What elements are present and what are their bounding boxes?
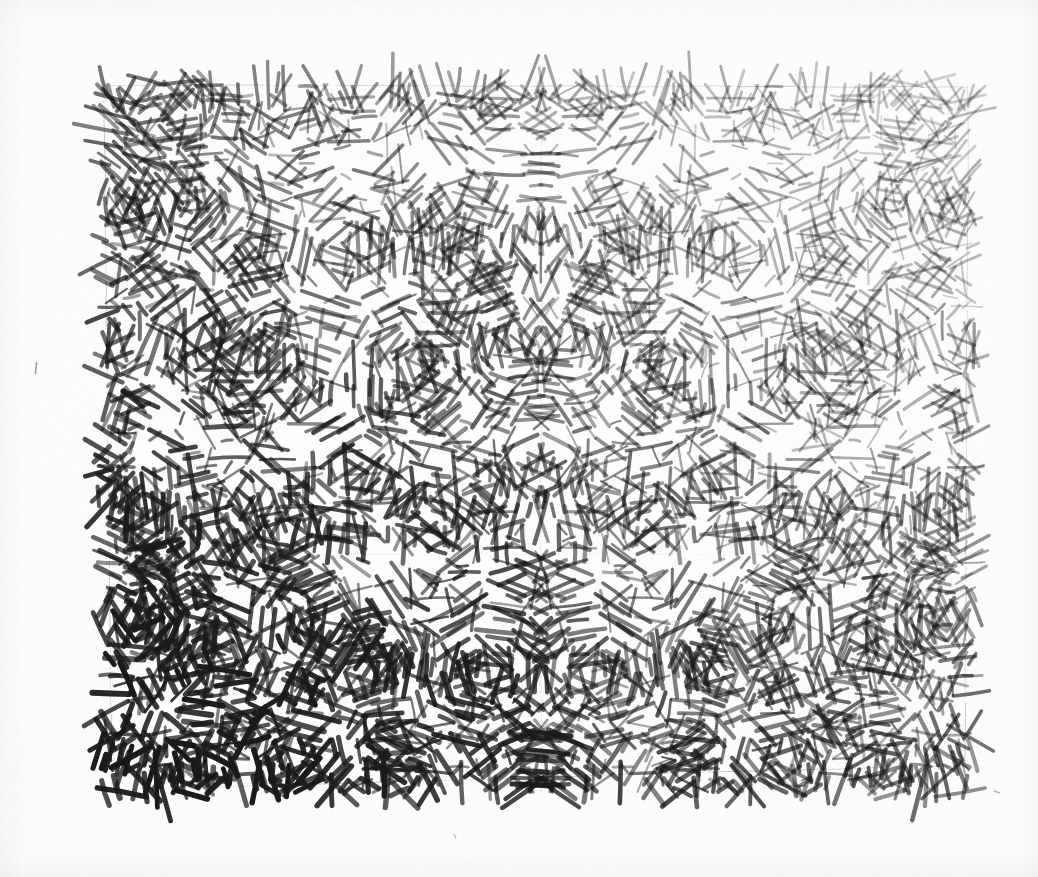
dash-stroke-filler-mirrored	[811, 591, 829, 594]
dash-stroke-filler	[269, 155, 306, 156]
dash-stroke-filler-mirrored	[604, 586, 632, 609]
dash-stroke-filler-mirrored	[941, 392, 953, 394]
dash-stroke-filler-mirrored	[676, 514, 692, 515]
dash-stroke-mirrored	[836, 283, 848, 300]
dash-stroke-filler	[188, 574, 219, 578]
dash-stroke-mirrored	[608, 547, 646, 573]
dash-stroke-mirrored	[897, 161, 911, 164]
dash-stroke	[328, 695, 333, 710]
lower-horizontal-fold	[366, 554, 400, 555]
dash-stroke-filler	[281, 197, 291, 201]
dash-stroke-mirrored	[647, 483, 663, 487]
dash-stroke-filler	[309, 511, 328, 513]
dash-stroke-filler	[443, 442, 470, 444]
dash-stroke	[369, 431, 380, 436]
dash-stroke-filler	[125, 132, 126, 149]
dash-stroke-filler-mirrored	[733, 497, 742, 498]
dash-stroke	[410, 394, 430, 403]
dash-stroke-mirrored	[860, 290, 885, 306]
dash-stroke-filler-mirrored	[669, 190, 679, 191]
dash-stroke	[320, 346, 339, 353]
dash-stroke-mirrored	[631, 64, 647, 106]
dash-stroke-filler-mirrored	[790, 197, 800, 201]
dash-stroke-mirrored	[811, 63, 817, 108]
dash-stroke	[363, 523, 366, 560]
dash-stroke-filler	[410, 272, 420, 274]
dash-stroke-filler	[306, 345, 307, 359]
frame-edge-left	[110, 684, 111, 710]
dash-stroke-filler-mirrored	[869, 290, 882, 291]
dash-stroke-filler-mirrored	[741, 557, 749, 568]
dash-stroke-mirrored	[701, 124, 708, 140]
dash-stroke	[444, 114, 460, 117]
dash-stroke	[224, 121, 244, 122]
dash-stroke-filler	[194, 397, 204, 399]
dash-stroke-filler	[225, 462, 232, 473]
dash-stroke-filler	[371, 484, 373, 510]
dash-stroke	[313, 453, 314, 489]
dash-stroke-filler-mirrored	[556, 355, 589, 361]
dash-stroke	[107, 324, 109, 367]
dash-stroke-filler-mirrored	[956, 573, 973, 584]
dash-stroke-mirrored	[632, 232, 633, 275]
dash-stroke-filler	[261, 245, 286, 248]
dash-stroke-mirrored	[742, 346, 762, 353]
dash-stroke-filler	[398, 144, 403, 183]
dash-stroke-mirrored	[572, 479, 575, 497]
dash-stroke-mirrored	[899, 714, 915, 730]
dash-stroke-filler-mirrored	[827, 474, 831, 492]
dash-stroke-filler-mirrored	[781, 211, 785, 224]
dash-stroke	[144, 773, 147, 801]
dash-stroke-filler	[386, 124, 387, 162]
dash-stroke-mirrored	[870, 73, 871, 107]
dash-stroke	[438, 547, 474, 573]
dash-stroke-filler-mirrored	[883, 357, 886, 367]
dash-stroke-filler-mirrored	[771, 663, 785, 665]
dash-stroke-mirrored	[649, 659, 652, 675]
dash-stroke-filler-mirrored	[654, 415, 655, 425]
dash-stroke	[86, 106, 135, 120]
dash-stroke	[495, 619, 514, 622]
dash-stroke-filler-mirrored	[737, 263, 750, 264]
dash-stroke	[330, 382, 331, 404]
dash-stroke-mirrored	[531, 185, 542, 186]
dash-stroke	[170, 179, 183, 181]
dash-stroke-filler	[432, 287, 433, 322]
dash-stroke-mirrored	[652, 393, 673, 403]
dash-stroke-filler-mirrored	[695, 125, 696, 160]
dash-stroke-mirrored	[551, 504, 554, 517]
dash-stroke-filler-mirrored	[799, 183, 811, 185]
dash-stroke-filler	[449, 572, 479, 573]
margin-speck-right	[995, 791, 1000, 793]
dash-stroke	[192, 517, 193, 562]
dash-stroke-filler-mirrored	[544, 757, 546, 769]
dash-stroke-filler-mirrored	[895, 230, 904, 259]
dash-stroke-filler-mirrored	[832, 457, 873, 458]
dash-stroke-filler-mirrored	[689, 502, 715, 503]
dash-stroke	[108, 524, 123, 531]
lower-horizontal-fold	[555, 554, 571, 555]
dash-stroke-filler	[425, 723, 454, 728]
dash-stroke-mirrored	[911, 465, 914, 487]
dash-stroke-filler	[367, 502, 393, 503]
dash-stroke-filler-mirrored	[795, 323, 807, 324]
dash-stroke-filler-mirrored	[732, 174, 740, 179]
dash-stroke-mirrored	[699, 229, 701, 241]
dash-stroke	[411, 462, 441, 470]
dash-stroke-filler-mirrored	[944, 374, 960, 380]
dash-stroke-mirrored	[638, 433, 655, 435]
dash-stroke	[420, 484, 436, 486]
dash-stroke-filler-mirrored	[704, 348, 706, 363]
dash-stroke-filler-mirrored	[561, 548, 596, 549]
dash-stroke-filler	[403, 190, 413, 191]
dash-stroke-filler	[277, 784, 303, 785]
dash-stroke-filler	[186, 171, 187, 186]
dash-stroke-mirrored	[847, 295, 870, 309]
dash-stroke	[393, 243, 395, 277]
dash-stroke-filler-mirrored	[961, 261, 966, 295]
dash-stroke-filler	[450, 766, 469, 767]
dash-stroke-filler-mirrored	[603, 572, 632, 573]
hatched-dash-drawing: Untitled hatched dash field A dense all-…	[0, 0, 1038, 877]
dash-stroke-filler	[381, 766, 383, 781]
dash-stroke	[480, 76, 486, 113]
